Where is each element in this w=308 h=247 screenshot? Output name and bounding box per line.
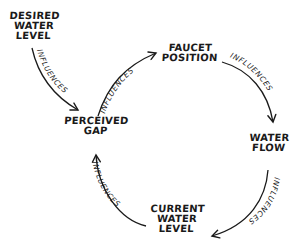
- edge-label-2: INFLUENCES: [98, 66, 135, 115]
- node-desired-water-level: DESIRED WATER LEVEL: [7, 11, 61, 41]
- node-line: FLOW: [243, 143, 294, 153]
- edge-label-3: INFLUENCES: [229, 51, 275, 93]
- node-line: LEVEL: [145, 224, 208, 234]
- edge-label-5: INFLUENCES: [91, 161, 122, 209]
- edge-label-4: INFLUENCES: [247, 177, 282, 227]
- node-faucet-position: FAUCET POSITION: [157, 43, 222, 63]
- causal-loop-diagram: INFLUENCES INFLUENCES INFLUENCES INFLUEN…: [0, 0, 308, 247]
- node-perceived-gap: PERCEIVED GAP: [59, 116, 132, 136]
- node-line: LEVEL: [7, 31, 60, 41]
- node-water-flow: WATER FLOW: [243, 133, 294, 153]
- edge-faucet-to-flow: [222, 62, 273, 122]
- node-line: GAP: [59, 126, 132, 136]
- edge-flow-to-current: [212, 170, 268, 236]
- node-line: POSITION: [157, 53, 222, 63]
- node-current-water-level: CURRENT WATER LEVEL: [145, 204, 209, 234]
